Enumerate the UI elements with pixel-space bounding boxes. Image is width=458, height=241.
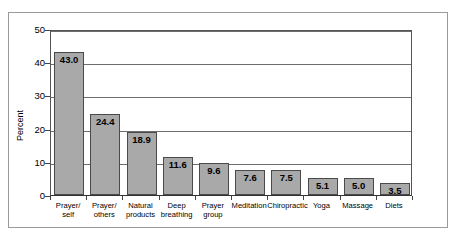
x-axis-tick-label: Naturalproducts — [122, 201, 158, 220]
plot-area: 43.024.418.911.69.67.67.55.15.03.5 — [50, 30, 412, 196]
bar: 11.6 — [163, 157, 193, 196]
x-axis-tick-label-line: Deep — [159, 201, 195, 210]
bar: 7.6 — [235, 170, 265, 195]
x-axis-tick-label-line: Massage — [340, 201, 376, 210]
x-axis-tick-mark — [159, 196, 160, 200]
bar-value-label: 43.0 — [55, 55, 83, 65]
x-axis-tick-label-line: group — [195, 210, 231, 219]
x-axis-tick-mark — [86, 196, 87, 200]
x-axis-tick-mark — [231, 196, 232, 200]
bar: 5.1 — [308, 178, 338, 195]
x-axis-tick-label-line: others — [86, 210, 122, 219]
x-axis-tick-label: Prayer/others — [86, 201, 122, 220]
bar: 43.0 — [54, 52, 84, 195]
x-axis-tick-mark — [376, 196, 377, 200]
y-axis-tick-label: 30 — [23, 91, 45, 101]
y-axis-tick-mark — [45, 163, 50, 164]
x-axis-tick-mark — [50, 196, 51, 200]
y-axis-tick-mark — [45, 30, 50, 31]
y-axis-tick-label: 50 — [23, 25, 45, 35]
bar-chart-figure: Percent 01020304050 43.024.418.911.69.67… — [0, 0, 458, 241]
bar-value-label: 5.0 — [345, 181, 373, 191]
x-axis-tick-mark — [267, 196, 268, 200]
x-axis-tick-label: Yoga — [303, 201, 339, 210]
x-axis-tick-mark — [122, 196, 123, 200]
x-axis-tick-label: Deepbreathing — [159, 201, 195, 220]
x-axis-tick-label: Diets — [376, 201, 412, 210]
bar-value-label: 9.6 — [200, 166, 228, 176]
bar: 18.9 — [127, 132, 157, 195]
x-axis-tick-mark — [340, 196, 341, 200]
x-axis-tick-label-line: Prayer/ — [50, 201, 86, 210]
y-axis-tick-label: 10 — [23, 158, 45, 168]
y-axis-tick-labels: 01020304050 — [22, 30, 45, 196]
bar-value-label: 5.1 — [309, 181, 337, 191]
x-axis-tick-label-line: self — [50, 210, 86, 219]
y-axis-tick-mark — [45, 130, 50, 131]
x-axis-tick-label-line: Natural — [122, 201, 158, 210]
bar: 9.6 — [199, 163, 229, 195]
bar: 24.4 — [90, 114, 120, 195]
x-axis-tick-label-line: Prayer/ — [86, 201, 122, 210]
x-axis-tick-label-line: Chiropractic — [267, 201, 303, 210]
x-axis-tick-label: Prayergroup — [195, 201, 231, 220]
bar-value-label: 11.6 — [164, 160, 192, 170]
gridline — [51, 97, 411, 98]
x-axis-tick-label: Meditation — [231, 201, 267, 210]
x-axis-tick-mark — [412, 196, 413, 200]
x-axis-tick-label: Chiropractic — [267, 201, 303, 210]
x-axis-tick-label-line: Diets — [376, 201, 412, 210]
x-axis-tick-label-line: products — [122, 210, 158, 219]
bar-value-label: 7.6 — [236, 173, 264, 183]
gridline — [51, 64, 411, 65]
bar-value-label: 3.5 — [381, 186, 409, 196]
bar: 5.0 — [344, 178, 374, 195]
y-axis-tick-mark — [45, 96, 50, 97]
x-axis-tick-label: Prayer/self — [50, 201, 86, 220]
x-axis-tick-label-line: Prayer — [195, 201, 231, 210]
x-axis-tick-label-line: breathing — [159, 210, 195, 219]
y-axis-tick-label: 20 — [23, 125, 45, 135]
x-axis-tick-label-line: Yoga — [303, 201, 339, 210]
y-axis-tick-label: 0 — [23, 191, 45, 201]
x-axis-tick-mark — [195, 196, 196, 200]
bar-value-label: 18.9 — [128, 135, 156, 145]
bar: 7.5 — [271, 170, 301, 195]
x-axis-tick-label-line: Meditation — [231, 201, 267, 210]
x-axis-tick-label: Massage — [340, 201, 376, 210]
gridline — [51, 31, 411, 32]
y-axis-tick-mark — [45, 63, 50, 64]
bar-value-label: 24.4 — [91, 117, 119, 127]
bar-value-label: 7.5 — [272, 173, 300, 183]
x-axis-tick-mark — [303, 196, 304, 200]
bar: 3.5 — [380, 183, 410, 195]
y-axis-tick-label: 40 — [23, 58, 45, 68]
